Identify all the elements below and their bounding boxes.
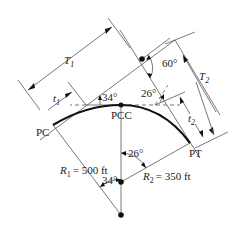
delta2-center-label: 26° — [128, 147, 143, 159]
delta1-top-label: 34° — [102, 91, 117, 103]
T2-dimension-line-top — [175, 40, 220, 115]
t1-label: t1 — [53, 92, 60, 107]
delta2-top-label: 26° — [141, 87, 156, 99]
t1-arrow-right — [65, 92, 72, 98]
pcc-point — [119, 103, 124, 108]
pcc-label: PCC — [111, 109, 132, 121]
compound-curve-diagram: PC PCC PT 60° 34° 26° 26° 34° T1 t1 T2 t… — [0, 0, 251, 228]
delta-total-label: 60° — [162, 57, 177, 69]
center-2-point — [118, 179, 124, 185]
t2-label: t2 — [188, 112, 195, 127]
t1-ext-right — [68, 82, 86, 105]
T1-ext-left — [18, 80, 40, 110]
T1-arrow-right — [105, 27, 112, 34]
delta2-center-arrow-right — [141, 162, 146, 168]
T2-dimension-line — [183, 55, 216, 112]
diagram-svg: PC PCC PT 60° 34° 26° 26° 34° T1 t1 T2 t… — [0, 0, 251, 228]
T1-ext-right — [108, 18, 130, 48]
pc-label: PC — [36, 126, 49, 138]
pt-label: PT — [189, 147, 202, 159]
back-tangent-extension — [142, 38, 170, 59]
pi-point — [139, 56, 145, 62]
delta2-center-arrow-left — [121, 151, 126, 156]
center-1-point — [118, 212, 124, 218]
r1-label: R1= 500 ft — [59, 164, 108, 179]
T2-ext-bottom — [195, 132, 228, 148]
T1-arrow-left — [28, 83, 35, 90]
r2-label: R2= 350 ft — [142, 170, 191, 185]
